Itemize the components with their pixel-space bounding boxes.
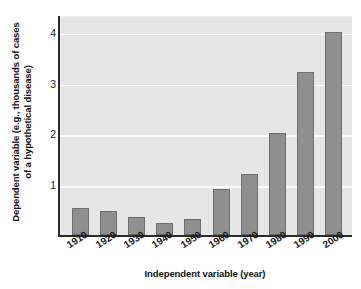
- x-tick-slot: 2000: [320, 237, 348, 267]
- bar-slot: [320, 16, 348, 235]
- bar-1970[interactable]: [241, 174, 258, 235]
- bar-1990[interactable]: [297, 72, 314, 235]
- bar-slot: [235, 16, 263, 235]
- bar-1960[interactable]: [213, 189, 230, 235]
- bar-slot: [179, 16, 207, 235]
- x-tick-slot: 1990: [291, 237, 319, 267]
- x-axis-title: Independent variable (year): [58, 268, 352, 279]
- bar-slot: [66, 16, 94, 235]
- x-tick-slot: 1920: [92, 237, 120, 267]
- bar-slot: [207, 16, 235, 235]
- x-tick-slot: 1910: [64, 237, 92, 267]
- y-tick-2: 2: [38, 128, 56, 140]
- bar-2000[interactable]: [325, 32, 342, 235]
- x-tick-slot: 1970: [234, 237, 262, 267]
- bar-1980[interactable]: [269, 133, 286, 235]
- bar-slot: [151, 16, 179, 235]
- bar-slot: [122, 16, 150, 235]
- y-axis-tick-labels: 4 3 2 1: [34, 0, 56, 245]
- plot-area: [58, 16, 352, 237]
- bar-slot: [263, 16, 291, 235]
- bar-series: [60, 16, 352, 235]
- bar-chart-figure: Dependent variable (e.g., thousands of c…: [0, 0, 361, 289]
- bar-slot: [94, 16, 122, 235]
- x-tick-slot: 1960: [206, 237, 234, 267]
- y-tick-3: 3: [38, 78, 56, 90]
- x-tick-slot: 1940: [149, 237, 177, 267]
- bar-slot: [292, 16, 320, 235]
- x-tick-slot: 1980: [263, 237, 291, 267]
- x-tick-slot: 1930: [121, 237, 149, 267]
- y-tick-1: 1: [38, 179, 56, 191]
- y-tick-4: 4: [38, 27, 56, 39]
- x-tick-slot: 1950: [178, 237, 206, 267]
- x-axis-tick-labels: 1910192019301940195019601970198019902000: [58, 237, 352, 267]
